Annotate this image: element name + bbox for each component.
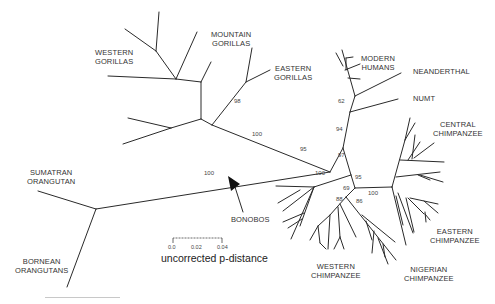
orangutan-branches: [38, 172, 330, 287]
divider: [45, 297, 120, 298]
branch-gorilla-upper-tip: [201, 62, 211, 82]
branch-bonobo-f: [288, 219, 302, 228]
bootstrap-homo-pan: 95: [300, 146, 307, 152]
branch-human-d: [346, 57, 353, 58]
bootstrap-western: 88: [336, 196, 343, 202]
branch-western-sub: [156, 51, 176, 79]
label-bornean-orangutans: BORNEAN ORANGUTANS: [15, 257, 68, 275]
branch-central-e: [412, 135, 415, 159]
scale-tick-1: 0.02: [191, 244, 202, 250]
branch-ec-a: [396, 196, 403, 225]
bootstrap-gorilla-clade: 100: [252, 131, 262, 137]
label-eastern-chimpanzee: EASTERN CHIMPANZEE: [430, 227, 480, 245]
branch-lower-tip1: [128, 118, 171, 128]
branch-western-tip2: [176, 32, 197, 79]
branch-homo-stem: [343, 112, 350, 148]
arrow-icon: [228, 176, 243, 212]
scale-bar: [173, 238, 222, 243]
branch-wc-c2: [340, 237, 344, 249]
scale-tick-2: 0.04: [217, 244, 228, 250]
label-numt: NUMT: [413, 94, 435, 103]
label-mountain-gorillas: MOUNTAIN GORILLAS: [211, 30, 251, 48]
branch-mountain: [246, 48, 252, 82]
branch-bornean: [67, 209, 96, 287]
branch-neanderthal: [355, 73, 401, 96]
label-bonobos: BONOBOS: [231, 215, 270, 224]
branch-chimp-main: [355, 187, 392, 188]
label-eastern-gorillas: EASTERN GORILLAS: [274, 64, 312, 82]
branch-western-tip1: [108, 76, 176, 79]
bootstrap-nigerian: 86: [356, 198, 363, 204]
branch-human-e: [336, 53, 343, 66]
branch-wc-c: [338, 207, 340, 237]
label-sumatran-orangutan: SUMATRAN ORANGUTAN: [27, 168, 75, 186]
branch-central-c: [400, 160, 444, 162]
branch-central-f: [414, 143, 434, 158]
scale-tick-0: 0.0: [168, 244, 176, 250]
branch-bonobo-g: [291, 187, 314, 239]
branch-sumatran: [38, 191, 96, 209]
bootstrap-human-neanderthal: 62: [338, 98, 345, 104]
branch-ng-c: [378, 238, 388, 264]
branch-wc-a3: [320, 243, 326, 249]
branch-gorilla-stem: [212, 125, 330, 172]
branch-ng-a: [366, 221, 372, 240]
branch-eastern: [246, 70, 270, 82]
branch-ng-b: [372, 231, 374, 253]
branch-wc-d: [340, 204, 356, 237]
branch-lower-tip2: [123, 128, 171, 144]
branch-ec-g: [425, 212, 426, 222]
bootstrap-pan-split: 97: [338, 152, 345, 158]
branch-bonobo-a: [276, 186, 314, 187]
branch-central-g: [396, 172, 440, 177]
branch-wc-a2: [318, 226, 320, 243]
branch-main-orangutan: [96, 172, 330, 209]
branch-wc-a: [318, 215, 330, 226]
branch-homo-stem2: [350, 96, 355, 112]
label-nigerian-chimpanzee: NIGERIAN CHIMPANZEE: [404, 265, 454, 283]
branch-western-node: [176, 79, 201, 82]
bootstrap-orangutan-branch: 100: [204, 170, 214, 176]
bootstrap-central-eastern: 100: [368, 190, 378, 196]
label-modern-humans: MODERN HUMANS: [361, 54, 395, 72]
label-neanderthal: NEANDERTHAL: [413, 67, 470, 76]
branch-central-h: [420, 175, 443, 182]
bootstrap-human-numt: 94: [336, 126, 343, 132]
label-western-chimpanzee: WESTERN CHIMPANZEE: [311, 262, 361, 280]
branch-numt: [350, 99, 398, 112]
branch-central-stem: [392, 140, 405, 187]
bootstrap-bonobo-clade: 100: [315, 170, 325, 176]
branch-wc-b: [328, 215, 330, 249]
branch-western-tip4: [156, 12, 159, 51]
scale-label: uncorrected p-distance: [161, 252, 268, 264]
pan-branches: [276, 118, 444, 264]
branch-gorilla-a: [201, 119, 212, 125]
branch-wc-a1: [310, 226, 318, 240]
branch-wc-c1: [334, 237, 340, 249]
branch-bonobo-b: [278, 190, 300, 203]
branch-lower-gorilla: [171, 119, 201, 128]
label-western-gorillas: WESTERN GORILLAS: [95, 48, 133, 66]
branch-nigerian: [346, 197, 396, 260]
bootstrap-western-nigerian: 69: [343, 185, 350, 191]
label-central-chimpanzee: CENTRAL CHIMPANZEE: [433, 120, 483, 138]
bootstrap-chimp-clade: 95: [355, 174, 362, 180]
bootstrap-gorilla-mountain-eastern: 98: [234, 98, 241, 104]
